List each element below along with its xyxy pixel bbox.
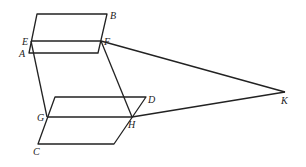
point-label-d: D <box>147 94 156 105</box>
point-label-c: C <box>33 146 40 157</box>
point-label-a: A <box>18 48 26 59</box>
point-label-k: K <box>280 95 289 106</box>
geometry-diagram: ABCDEFGHK <box>0 0 306 167</box>
point-label-e: E <box>21 36 28 47</box>
point-label-h: H <box>127 119 136 130</box>
segment-FH <box>101 41 132 117</box>
diagram-canvas: ABCDEFGHK <box>0 0 306 167</box>
upper-parallelogram <box>29 14 107 53</box>
point-label-b: B <box>110 10 116 21</box>
point-label-g: G <box>37 112 44 123</box>
segment-FK <box>101 41 285 92</box>
point-label-f: F <box>103 36 111 47</box>
